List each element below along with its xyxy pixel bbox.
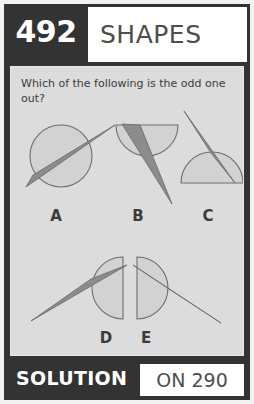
shape-option-d[interactable] [27,245,133,327]
card-header: 492 SHAPES [4,4,250,62]
puzzle-number-block: 492 [4,4,88,62]
card-footer: SOLUTION ON 290 [4,360,250,400]
solution-label: SOLUTION [16,369,127,388]
shape-label-e: E [131,331,161,346]
question-panel: Which of the following is the odd one ou… [10,66,244,356]
category-title: SHAPES [88,22,202,47]
question-text: Which of the following is the odd one ou… [21,76,233,106]
shape-label-c: C [191,209,225,224]
shape-option-e[interactable] [123,245,229,327]
shape-option-a[interactable] [25,111,119,203]
puzzle-card: 492 SHAPES Which of the following is the… [0,0,254,404]
answer-reference: ON 290 [156,371,227,390]
answer-reference-box[interactable]: ON 290 [140,364,244,396]
category-title-box: SHAPES [88,7,247,62]
puzzle-number: 492 [15,17,76,49]
shape-label-a: A [39,209,73,224]
shape-label-d: D [91,331,121,346]
shape-label-b: B [121,209,155,224]
shape-option-c[interactable] [171,109,244,205]
shapes-area: A B C D E [11,109,243,355]
